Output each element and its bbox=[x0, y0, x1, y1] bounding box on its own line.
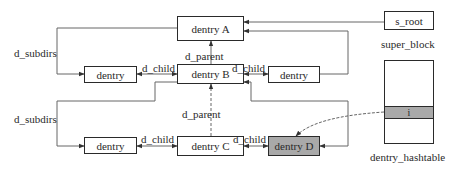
dentry-hashtable: i bbox=[384, 60, 434, 144]
d-parent-c-b-label: d_parent bbox=[182, 108, 220, 120]
sibling-c-left-node: dentry bbox=[84, 137, 137, 154]
sibling-b-left-node: dentry bbox=[84, 66, 137, 83]
dentry-d-node: dentry D bbox=[268, 136, 320, 156]
d-child-c-right-label: d_child bbox=[233, 133, 266, 145]
d-child-b-right-label: d_child bbox=[232, 62, 265, 74]
dentry-hashtable-caption: dentry_hashtable bbox=[370, 151, 445, 163]
d-child-b-left-label: d_child bbox=[142, 62, 175, 74]
hashtable-slot-i: i bbox=[385, 106, 433, 119]
d-subdirs-bottom-label: d_subdirs bbox=[14, 113, 57, 125]
dentry-a-node: dentry A bbox=[177, 16, 244, 41]
d-subdirs-top-label: d_subdirs bbox=[14, 47, 57, 59]
sibling-b-right-node: dentry bbox=[268, 66, 320, 83]
d-parent-b-a-label: d_parent bbox=[185, 50, 223, 62]
super-block-caption: super_block bbox=[381, 38, 435, 50]
d-child-c-left-label: d_child bbox=[141, 133, 174, 145]
edge-hash-to-dentry-d bbox=[296, 112, 384, 136]
s-root-node: s_root bbox=[384, 11, 434, 30]
